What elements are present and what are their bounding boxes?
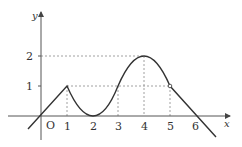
origin-label: O [46,119,55,132]
x-tick-label-1: 1 [64,120,71,133]
y-tick-label-2: 2 [26,50,33,63]
x-axis-label: x [224,118,230,129]
y-tick-label-1: 1 [26,80,33,93]
x-tick-label-5: 5 [167,120,174,133]
x-tick-label-2: 2 [90,120,97,133]
function-curve [28,56,216,137]
open-point [168,84,172,88]
x-tick-label-4: 4 [141,120,148,133]
dashed-guides [41,56,170,116]
axis-labels: y x O 2 1 1 2 3 4 5 6 [26,10,230,133]
x-tick-label-3: 3 [115,120,122,133]
y-axis-label: y [31,10,38,21]
x-tick-label-6: 6 [192,120,199,133]
function-graph: y x O 2 1 1 2 3 4 5 6 [0,0,242,147]
